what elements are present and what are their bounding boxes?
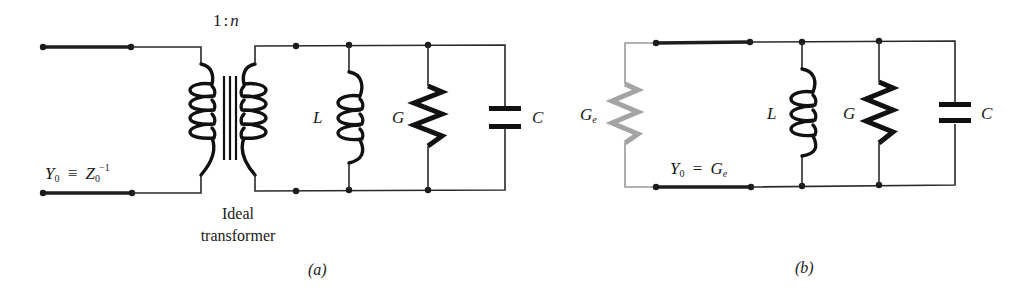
equivalence-operator: ≡ (68, 164, 78, 183)
panel-a-circuit (40, 42, 521, 196)
inductor-label-b: L (767, 105, 776, 122)
resistor-G-icon (866, 82, 893, 143)
capacitor-label-b: C (981, 105, 992, 122)
inductor-label-a: L (313, 109, 322, 126)
conductance-label-a: G (392, 109, 404, 126)
transformer-label-line2: transformer (183, 228, 293, 244)
transformer-secondary-coil-icon (241, 64, 266, 175)
ratio-sep: : (224, 11, 229, 30)
impedance-superscript: −1 (99, 162, 110, 173)
resistor-G-icon (414, 86, 442, 146)
transformer-core-icon (224, 76, 236, 160)
inductor-L-icon (791, 69, 816, 156)
panel-b-circuit (612, 38, 971, 190)
admittance-subscript: 0 (679, 168, 684, 179)
source-subscript: e (592, 114, 596, 125)
impedance-subscript: 0 (95, 173, 100, 184)
admittance-label-a: Y0 ≡ Z0−1 (45, 165, 110, 182)
circuit-diagrams (0, 0, 1026, 292)
equals-operator: = (693, 159, 703, 178)
impedance-symbol: Z (86, 164, 95, 183)
capacitor-C-icon (939, 102, 971, 123)
ratio-left: 1 (213, 11, 222, 30)
panel-a-caption: (a) (308, 262, 327, 278)
transformer-label-line1: Ideal (208, 206, 268, 222)
transformer-primary-coil-icon (190, 64, 215, 175)
admittance-subscript: 0 (54, 173, 59, 184)
conductance-symbol: G (711, 159, 723, 178)
conductance-label-b: G (843, 105, 855, 122)
ratio-right: n (230, 11, 239, 30)
conductance-subscript: e (723, 168, 727, 179)
transformer-ratio-label: 1:n (213, 12, 239, 29)
terminal-top (656, 42, 750, 43)
figure: 1:n Y0 ≡ Z0−1 Ideal transformer L G C (a… (0, 0, 1026, 292)
admittance-label-b: Y0 = Ge (670, 160, 727, 177)
panel-b-caption: (b) (795, 260, 814, 276)
source-conductance-label: Ge (580, 106, 597, 123)
source-resistor-Ge-icon (612, 84, 638, 143)
capacitor-label-a: C (532, 109, 543, 126)
capacitor-C-icon (489, 106, 521, 129)
source-symbol: G (580, 105, 592, 124)
inductor-L-icon (338, 72, 363, 163)
